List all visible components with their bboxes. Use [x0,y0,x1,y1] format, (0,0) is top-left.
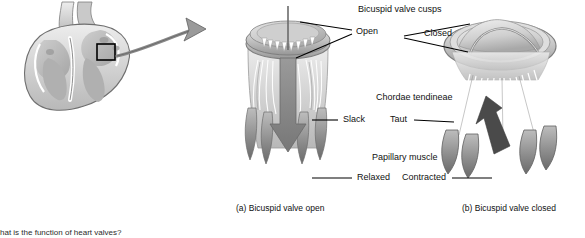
label-cusps-open: Open [356,26,378,36]
label-cusps-closed: Closed [424,28,452,38]
label-bicuspid-valve-cusps: Bicuspid valve cusps [358,4,442,14]
bicuspid-valve-open-illustration [245,6,330,164]
heart-cross-section-icon [25,2,130,110]
bicuspid-valve-closed-illustration [442,20,557,178]
caption-panel-a: (a) Bicuspid valve open [236,203,324,213]
label-chordae-tendineae: Chordae tendineae [376,92,453,102]
label-chordae-slack: Slack [343,114,365,124]
label-papillary-contracted: Contracted [402,172,446,182]
label-papillary-relaxed: Relaxed [357,172,390,182]
label-chordae-taut: Taut [390,114,407,124]
clipped-question-text: hat is the function of heart valves? [0,228,160,236]
blood-flow-blocked-arrow-icon [476,96,510,154]
curved-zoom-arrow-icon [117,18,206,56]
caption-panel-b: (b) Bicuspid valve closed [462,203,556,213]
label-papillary-muscle: Papillary muscle [372,152,438,162]
